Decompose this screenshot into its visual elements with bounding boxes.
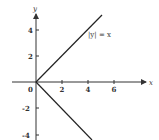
y-axis-label: y	[32, 5, 38, 13]
plot-area: 0 2 4 6 4 2 -2 -4 x y |y| = x	[0, 0, 159, 140]
y-tick-label-4: 4	[28, 26, 33, 35]
equation-annotation: |y| = x	[88, 31, 111, 39]
x-tick-label-4: 4	[86, 85, 91, 94]
y-tick-label-2: 2	[28, 52, 33, 61]
y-tick-label-m2: -2	[22, 104, 30, 113]
upper-branch-line	[36, 15, 102, 82]
x-axis-label: x	[149, 79, 153, 87]
x-tick-label-6: 6	[112, 85, 117, 94]
y-tick-label-m4: -4	[22, 131, 30, 140]
x-tick-label-2: 2	[60, 85, 65, 94]
origin-label: 0	[28, 85, 33, 94]
